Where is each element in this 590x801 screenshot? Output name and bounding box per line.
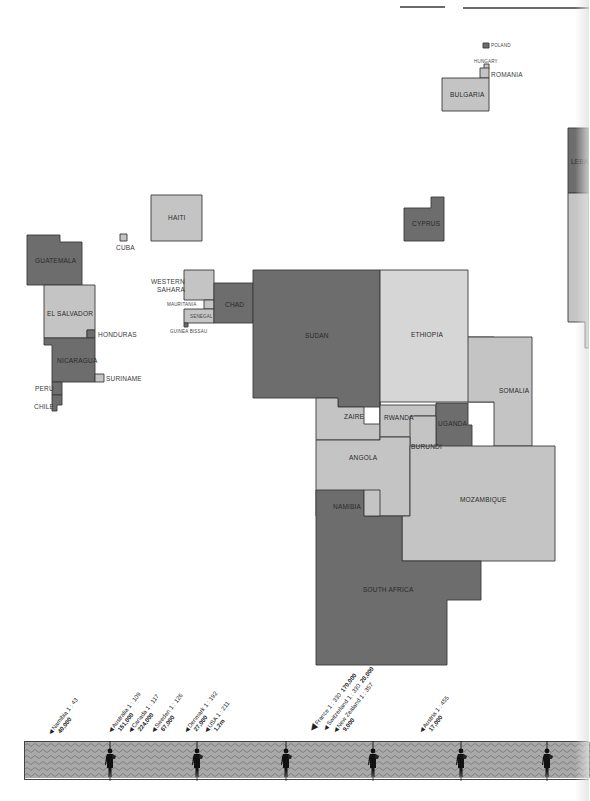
country-mozambique: [402, 446, 555, 561]
hanged-figure-icon: [454, 741, 468, 781]
label-sahara: SAHARA: [157, 286, 185, 293]
label-chad: CHAD: [225, 301, 244, 308]
label-rwanda: RWANDA: [384, 414, 414, 421]
label-leba: LEBA: [571, 158, 588, 165]
label-suriname: SURINAME: [106, 375, 142, 382]
label-honduras: HONDURAS: [98, 331, 137, 338]
label-guinea-bissau: GUINEA BISSAU: [170, 329, 207, 334]
country-guinea-bissau: [184, 323, 188, 327]
label-romania: ROMANIA: [491, 71, 523, 78]
country-cyprus: [404, 197, 444, 241]
country-poland: [483, 43, 489, 48]
label-bulgaria: BULGARIA: [450, 91, 484, 98]
country-romania: [480, 68, 489, 78]
hanged-figure-icon: [279, 741, 293, 781]
label-hungary: HUNGARY: [474, 59, 498, 64]
label-poland: POLAND: [491, 43, 511, 48]
label-sudan: SUDAN: [305, 332, 329, 339]
label-angola: ANGOLA: [349, 454, 377, 461]
label-mozambique: MOZAMBIQUE: [460, 496, 506, 503]
label-ethiopia: ETHIOPIA: [411, 331, 443, 338]
label-senegal: SENEGAL: [190, 314, 213, 319]
label-chile: CHILE: [34, 403, 54, 410]
country-israel: [568, 193, 589, 348]
label-south-africa: SOUTH AFRICA: [363, 586, 413, 593]
label-nicaragua: NICARAGUA: [57, 357, 97, 364]
label-guatemala: GUATEMALA: [35, 257, 76, 264]
label-namibia: NAMIBIA: [333, 503, 361, 510]
country-mauritania: [204, 300, 214, 309]
country-honduras: [87, 330, 95, 338]
label-somalia: SOMALIA: [499, 387, 529, 394]
hanged-figure-icon: [103, 741, 117, 781]
country-namibia-inset: [364, 490, 380, 516]
country-western-sahara: [184, 270, 214, 300]
label-uganda: UGANDA: [438, 420, 467, 427]
label-peru: PERU: [35, 385, 54, 392]
hanged-figure-icon: [366, 741, 380, 781]
label-cyprus: CYPRUS: [412, 220, 440, 227]
label-burundi: BURUNDI: [411, 443, 442, 450]
label-haiti: HAITI: [168, 214, 186, 221]
label-el-salvador: EL SALVADOR: [47, 310, 93, 317]
label-mauritania: MAURITANIA: [167, 302, 196, 307]
country-suriname: [95, 374, 104, 382]
hanged-figure-icon: [540, 741, 554, 781]
label-zaire: ZAIRE: [344, 413, 364, 420]
label-cuba: CUBA: [116, 244, 135, 251]
country-cuba: [120, 234, 127, 241]
hanged-figure-icon: [190, 741, 204, 781]
label-western: WESTERN: [151, 278, 185, 285]
